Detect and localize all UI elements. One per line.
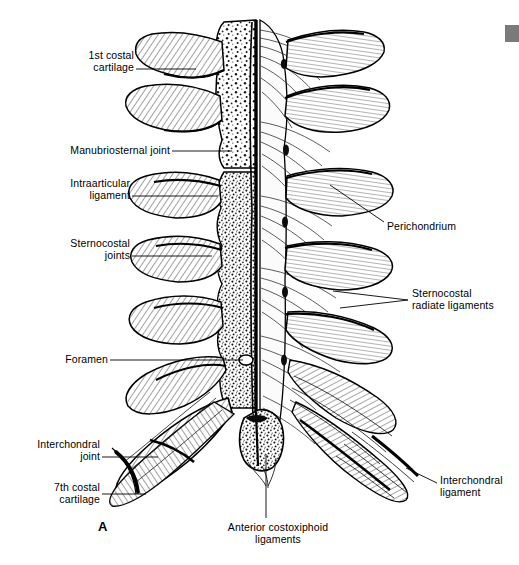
left-costal-cartilages [110, 32, 234, 506]
label-manubriosternal-joint: Manubriosternal joint [50, 145, 170, 157]
right-costal-cartilages [285, 30, 418, 501]
leader-interchondral-ligament [406, 468, 437, 483]
xiphoid-process [240, 410, 284, 488]
label-anterior-costoxiphoid-ligaments: Anterior costoxiphoid ligaments [206, 522, 350, 545]
label-1st-costal-cartilage: 1st costal cartilage [34, 50, 134, 73]
label-foramen: Foramen [40, 354, 108, 366]
label-sternocostal-radiate-ligaments: Sternocostal radiate ligaments [412, 288, 518, 311]
label-perichondrium: Perichondrium [387, 221, 507, 233]
label-sternocostal-joints: Sternocostal joints [30, 238, 130, 261]
leader-sternocostal-radiate-ligaments-2 [340, 300, 408, 308]
label-interchondral-ligament: Interchondral ligament [440, 475, 518, 498]
label-7th-costal-cartilage: 7th costal cartilage [14, 482, 100, 505]
figure-panel-letter: A [98, 519, 107, 534]
label-intraarticular-ligament: Intraarticular ligament [30, 178, 130, 201]
label-interchondral-joint: Interchondral joint [10, 439, 100, 462]
anatomical-figure-sternum: 1st costal cartilage Manubriosternal joi… [0, 0, 519, 565]
page-edge-tab [505, 25, 519, 42]
leader-sternocostal-radiate-ligaments [333, 291, 408, 300]
